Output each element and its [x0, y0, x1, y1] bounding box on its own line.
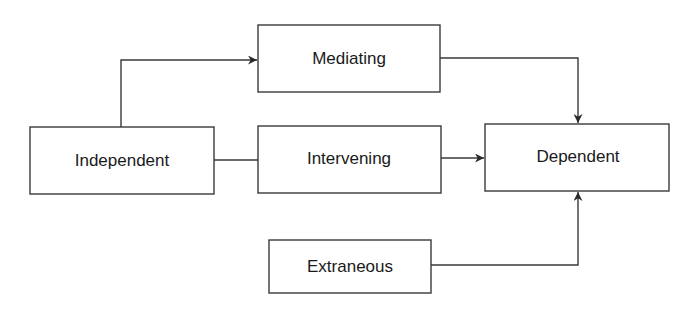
node-dependent: Dependent: [485, 124, 669, 191]
node-intervening: Intervening: [258, 126, 441, 193]
node-mediating: Mediating: [258, 25, 440, 92]
node-label: Intervening: [307, 149, 391, 168]
node-label: Extraneous: [307, 257, 393, 276]
variables-diagram: Mediating Independent Intervening Depend…: [0, 0, 696, 312]
edge-mediating-to-dependent: [440, 58, 578, 123]
node-label: Mediating: [312, 49, 386, 68]
node-extraneous: Extraneous: [269, 240, 431, 293]
edge-extraneous-to-dependent: [431, 192, 578, 265]
node-independent: Independent: [30, 127, 214, 194]
edge-independent-to-mediating: [121, 60, 257, 127]
node-label: Dependent: [536, 147, 619, 166]
node-label: Independent: [75, 151, 170, 170]
